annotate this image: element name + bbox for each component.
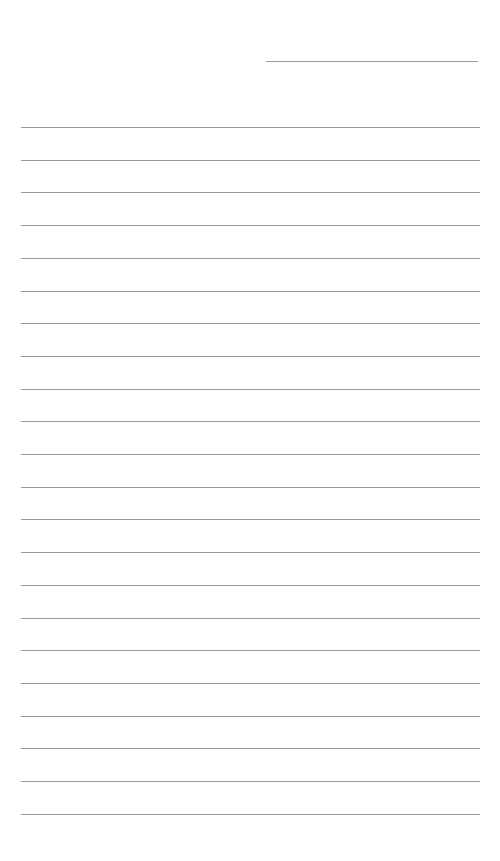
- ruled-line: [21, 618, 480, 619]
- ruled-line: [21, 552, 480, 553]
- ruled-line: [21, 748, 480, 749]
- ruled-line: [21, 650, 480, 651]
- ruled-line: [21, 683, 480, 684]
- ruled-line: [21, 716, 480, 717]
- header-date-line: [266, 61, 478, 62]
- ruled-line: [21, 192, 480, 193]
- ruled-line: [21, 258, 480, 259]
- ruled-line: [21, 781, 480, 782]
- ruled-line: [21, 389, 480, 390]
- ruled-line: [21, 291, 480, 292]
- ruled-line: [21, 127, 480, 128]
- ruled-line: [21, 323, 480, 324]
- ruled-line: [21, 585, 480, 586]
- ruled-line: [21, 814, 480, 815]
- ruled-line: [21, 487, 480, 488]
- ruled-line: [21, 356, 480, 357]
- ruled-line: [21, 160, 480, 161]
- ruled-line: [21, 519, 480, 520]
- ruled-line: [21, 421, 480, 422]
- ruled-line: [21, 225, 480, 226]
- ruled-line: [21, 454, 480, 455]
